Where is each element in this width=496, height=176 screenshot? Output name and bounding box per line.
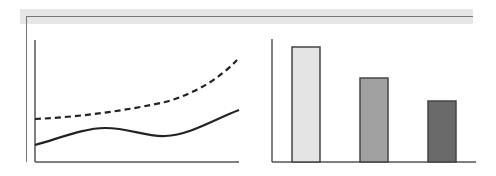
line-chart bbox=[35, 40, 239, 162]
charts-canvas bbox=[0, 0, 496, 176]
bar-c bbox=[428, 101, 456, 162]
solid-series-line bbox=[35, 110, 239, 145]
bar-a bbox=[292, 47, 320, 162]
bar-chart bbox=[272, 39, 476, 162]
dashed-series-line bbox=[35, 60, 237, 119]
bar-b bbox=[360, 78, 388, 162]
